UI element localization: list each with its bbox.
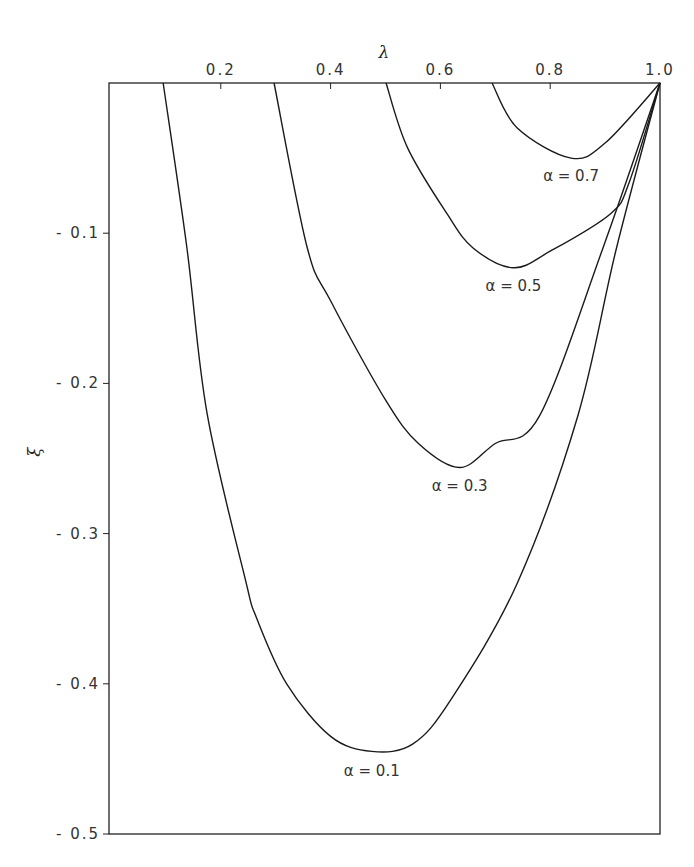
y-tick-label: - 0.2 [56, 374, 100, 392]
x-tick-label: 0.6 [425, 61, 455, 79]
y-tick-label: - 0.1 [56, 224, 100, 242]
x-axis-title: λ [378, 42, 390, 62]
curve-alpha-1 [274, 83, 660, 468]
y-axis-ticks: - 0.1- 0.2- 0.3- 0.4- 0.5 [56, 224, 109, 843]
y-tick-label: - 0.4 [56, 675, 100, 693]
x-tick-label: 0.8 [535, 61, 565, 79]
y-tick-label: - 0.5 [56, 825, 100, 843]
curve-labels: α = 0.1α = 0.3α = 0.5α = 0.7 [344, 167, 599, 780]
x-tick-label: 0.2 [206, 61, 236, 79]
x-tick-label: 0.4 [316, 61, 346, 79]
y-axis-title: ξ [24, 446, 44, 457]
curve-label: α = 0.1 [344, 762, 400, 780]
x-tick-label: 1.0 [645, 61, 675, 79]
curve-label: α = 0.7 [543, 167, 599, 185]
y-tick-label: - 0.3 [56, 525, 100, 543]
curve-label: α = 0.3 [432, 477, 488, 495]
curve-label: α = 0.5 [485, 277, 541, 295]
x-axis-ticks: 0.20.40.60.81.0 [206, 61, 675, 89]
curve-alpha-3 [492, 83, 660, 159]
plot-frame [109, 83, 660, 834]
chart-canvas: 0.20.40.60.81.0 - 0.1- 0.2- 0.3- 0.4- 0.… [0, 0, 694, 867]
